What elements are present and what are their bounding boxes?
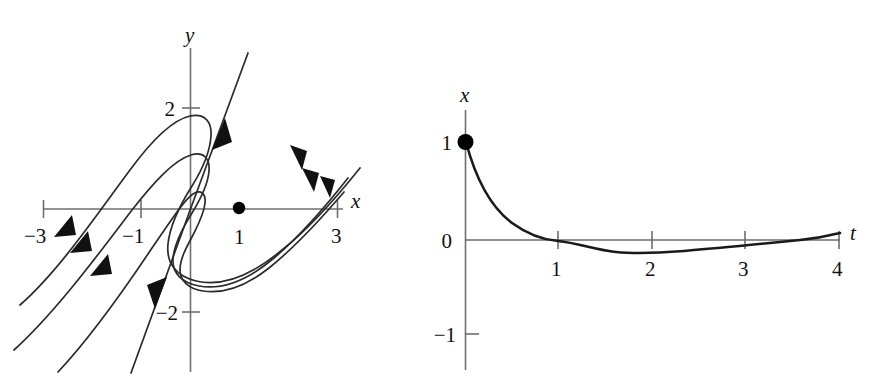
- time-ttick-label-3: 3: [738, 257, 749, 281]
- arrow-inner-inbound: [90, 254, 112, 276]
- arrow-middle-right: [302, 168, 319, 192]
- separatrix-steep-line: [131, 53, 248, 373]
- phase-initial-point-marker: [233, 202, 245, 214]
- time-series-svg: 1 2 3 4 1 0 −1 t x: [420, 0, 884, 384]
- arrow-outer-right: [290, 145, 307, 170]
- time-ttick-label-4: 4: [832, 257, 843, 281]
- phase-xtick-label-3: 3: [331, 224, 342, 248]
- phase-xtick-label-neg1: −1: [122, 224, 144, 248]
- time-ttick-label-2: 2: [645, 257, 656, 281]
- time-initial-point-marker: [458, 134, 474, 150]
- time-series-panel: 1 2 3 4 1 0 −1 t x: [420, 0, 884, 384]
- solution-curve-path: [466, 142, 840, 253]
- trajectory-middle-path: [14, 154, 348, 350]
- phase-portrait-panel: −3 −1 1 3 2 −2 x y: [0, 0, 420, 384]
- time-xtick-label-1: 1: [442, 131, 453, 155]
- time-ttick-label-1: 1: [551, 257, 562, 281]
- time-t-axis-label: t: [850, 221, 857, 245]
- arrow-outer-inbound: [54, 215, 76, 237]
- phase-portrait-svg: −3 −1 1 3 2 −2 x y: [0, 0, 420, 384]
- time-x-axis-label: x: [459, 83, 470, 107]
- arrow-inner-right: [320, 176, 335, 198]
- phase-xtick-label-1: 1: [234, 225, 245, 249]
- phase-ytick-label-neg2: −2: [156, 301, 178, 325]
- time-xtick-label-neg1: −1: [434, 323, 456, 347]
- phase-xtick-label-neg3: −3: [24, 224, 46, 248]
- figure-container: −3 −1 1 3 2 −2 x y: [0, 0, 884, 384]
- time-xtick-label-0: 0: [442, 229, 453, 253]
- phase-y-axis-label: y: [183, 23, 195, 47]
- phase-x-axis-label: x: [350, 189, 361, 213]
- phase-ytick-label-2: 2: [165, 97, 176, 121]
